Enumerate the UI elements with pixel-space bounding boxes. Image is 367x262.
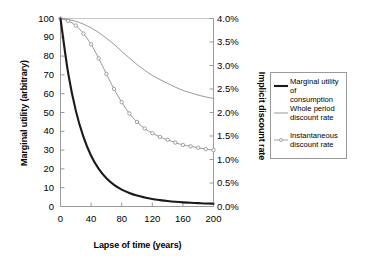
data-point-marker bbox=[212, 148, 215, 151]
data-point-marker bbox=[204, 147, 207, 150]
legend-label: Whole period discount rate bbox=[290, 104, 335, 122]
legend: Marginal utility of consumption Whole pe… bbox=[270, 72, 347, 159]
series-layer bbox=[59, 17, 215, 204]
data-point-marker bbox=[120, 100, 123, 103]
legend-swatch-thick-line bbox=[274, 77, 288, 87]
data-point-marker bbox=[135, 120, 138, 123]
data-point-marker bbox=[181, 143, 184, 146]
data-point-marker bbox=[112, 87, 115, 90]
chart-container: Marginal utility (arbitrary) Implicit di… bbox=[0, 0, 367, 262]
legend-item-whole-period[interactable]: Whole period discount rate bbox=[274, 104, 335, 122]
data-point-marker bbox=[66, 19, 69, 22]
legend-label: Marginal utility of consumption bbox=[290, 77, 346, 105]
data-point-marker bbox=[97, 57, 100, 60]
data-point-marker bbox=[189, 145, 192, 148]
data-point-marker bbox=[89, 43, 92, 46]
legend-swatch-marker-line bbox=[274, 131, 288, 141]
data-point-marker bbox=[143, 127, 146, 130]
legend-label: Instantaneous discount rate bbox=[290, 131, 338, 149]
data-point-marker bbox=[158, 135, 161, 138]
data-point-marker bbox=[82, 32, 85, 35]
data-point-marker bbox=[74, 24, 77, 27]
data-point-marker bbox=[151, 131, 154, 134]
data-point-marker bbox=[197, 146, 200, 149]
axis-lines bbox=[61, 19, 214, 207]
legend-item-instantaneous[interactable]: Instantaneous discount rate bbox=[274, 131, 338, 149]
tick-marks bbox=[61, 19, 214, 207]
series-line bbox=[61, 19, 214, 99]
data-point-marker bbox=[166, 138, 169, 141]
series-line bbox=[61, 19, 214, 204]
data-point-marker bbox=[105, 72, 108, 75]
legend-item-marginal-utility[interactable]: Marginal utility of consumption bbox=[274, 77, 346, 105]
data-point-marker bbox=[174, 141, 177, 144]
data-point-marker bbox=[128, 112, 131, 115]
legend-swatch-thin-line bbox=[274, 104, 288, 114]
